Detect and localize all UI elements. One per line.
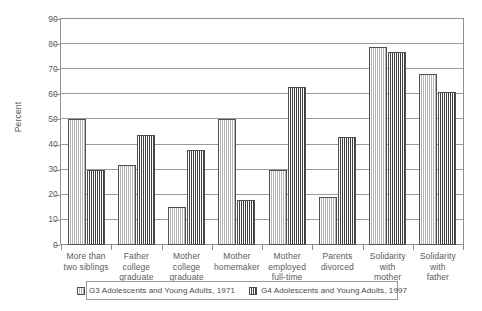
bar-g4 xyxy=(288,87,306,245)
y-tick-mark xyxy=(54,245,60,246)
x-category-label-line: Mother xyxy=(262,251,312,262)
x-category-label-line: employed xyxy=(262,262,312,273)
x-category-label: Motherhomemaker xyxy=(212,251,262,272)
bar-g3 xyxy=(118,165,136,245)
x-category-label-line: with xyxy=(363,262,413,273)
legend-swatch-g4-icon xyxy=(249,287,257,295)
bar-g3 xyxy=(419,74,437,245)
x-tick-mark xyxy=(111,245,112,250)
bar-g4 xyxy=(137,135,155,245)
bar-g4 xyxy=(438,92,456,245)
bar-g3 xyxy=(218,119,236,245)
x-category-label-line: with xyxy=(413,262,463,273)
legend-label: G4 Adolescents and Young Adults, 1997 xyxy=(261,286,407,295)
x-category-label: Parentsdivorced xyxy=(312,251,362,272)
bar-g3 xyxy=(168,207,186,245)
bar-g3 xyxy=(319,197,337,245)
bar-g3 xyxy=(269,170,287,245)
x-category-label-line: homemaker xyxy=(212,262,262,273)
x-tick-mark xyxy=(212,245,213,250)
x-category-label: Mothercollegegraduate xyxy=(162,251,212,283)
x-category-label-line: college xyxy=(111,262,161,273)
x-tick-mark xyxy=(61,245,62,250)
x-tick-mark xyxy=(413,245,414,250)
x-category-label-line: two siblings xyxy=(61,262,111,273)
bar-g4 xyxy=(187,150,205,245)
legend-label: G3 Adolescents and Young Adults, 1971 xyxy=(89,286,235,295)
bar-g4 xyxy=(237,200,255,245)
x-tick-mark xyxy=(312,245,313,250)
bar-g3 xyxy=(68,119,86,245)
x-category-label-line: Solidarity xyxy=(413,251,463,262)
y-axis-title: Percent xyxy=(13,82,23,152)
x-tick-mark xyxy=(363,245,364,250)
legend-entry[interactable]: G3 Adolescents and Young Adults, 1971 xyxy=(77,286,235,295)
x-category-label-line: father xyxy=(413,272,463,283)
x-category-label-line: Mother xyxy=(212,251,262,262)
x-category-label-line: divorced xyxy=(312,262,362,273)
bar-chart: Percent 0102030405060708090 More thantwo… xyxy=(0,0,482,311)
x-category-label: More thantwo siblings xyxy=(61,251,111,272)
x-category-label-line: More than xyxy=(61,251,111,262)
x-tick-mark xyxy=(463,245,464,250)
x-tick-mark xyxy=(162,245,163,250)
bar-g4 xyxy=(87,170,105,245)
x-category-label-line: Solidarity xyxy=(363,251,413,262)
x-category-label: Solidaritywithfather xyxy=(413,251,463,283)
bar-g4 xyxy=(388,52,406,245)
x-category-label: Solidaritywithmother xyxy=(363,251,413,283)
x-category-label-line: Mother xyxy=(162,251,212,262)
x-category-label-line: Father xyxy=(111,251,161,262)
bar-g3 xyxy=(369,47,387,245)
x-category-label-line: Parents xyxy=(312,251,362,262)
chart-legend: G3 Adolescents and Young Adults, 1971G4 … xyxy=(86,281,398,300)
bars-layer xyxy=(61,19,463,245)
x-category-label-line: college xyxy=(162,262,212,273)
x-tick-mark xyxy=(262,245,263,250)
legend-entry[interactable]: G4 Adolescents and Young Adults, 1997 xyxy=(249,286,407,295)
legend-swatch-g3-icon xyxy=(77,287,85,295)
bar-g4 xyxy=(338,137,356,245)
x-category-label: Motheremployedfull-time xyxy=(262,251,312,283)
x-category-label: Fathercollegegraduate xyxy=(111,251,161,283)
